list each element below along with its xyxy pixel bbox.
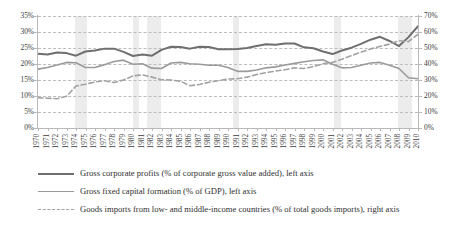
x-tick-mark xyxy=(314,128,315,131)
x-tick-mark xyxy=(219,128,220,131)
legend-swatch-line-icon xyxy=(38,186,74,196)
y-tick-mark-left xyxy=(34,32,37,33)
x-tick-mark xyxy=(190,128,191,131)
x-tick-label: 1979 xyxy=(120,134,127,148)
y-tick-mark-right xyxy=(419,80,422,81)
x-tick-mark xyxy=(209,128,210,131)
legend-item-goods-imports: Goods imports from low- and middle-incom… xyxy=(38,202,399,216)
y-tick-mark-left xyxy=(34,128,37,129)
x-tick-label: 2003 xyxy=(348,134,355,148)
y-tick-mark-right xyxy=(419,16,422,17)
x-tick-label: 1992 xyxy=(243,134,250,148)
x-tick-label: 2008 xyxy=(395,134,402,148)
x-tick-mark xyxy=(371,128,372,131)
chart-legend: Gross corporate profits (% of corporate … xyxy=(0,166,456,230)
y-tick-mark-left xyxy=(34,48,37,49)
x-tick-label: 2006 xyxy=(376,134,383,148)
x-tick-mark xyxy=(48,128,49,131)
x-tick-mark xyxy=(86,128,87,131)
y-tick-mark-left xyxy=(34,96,37,97)
x-tick-label: 2010 xyxy=(414,134,421,148)
x-tick-label: 1994 xyxy=(262,134,269,148)
legend-label: Gross fixed capital formation (% of GDP)… xyxy=(80,187,256,196)
x-tick-mark xyxy=(399,128,400,131)
axis-line-left xyxy=(37,15,38,129)
x-tick-label: 1989 xyxy=(215,134,222,148)
x-tick-mark xyxy=(181,128,182,131)
x-tick-label: 1975 xyxy=(82,134,89,148)
x-tick-label: 1997 xyxy=(291,134,298,148)
x-tick-label: 1995 xyxy=(272,134,279,148)
y-tick-mark-left xyxy=(34,16,37,17)
legend-label: Goods imports from low- and middle-incom… xyxy=(80,205,399,214)
x-tick-mark xyxy=(390,128,391,131)
series-line-1 xyxy=(38,60,418,79)
x-tick-label: 1976 xyxy=(91,134,98,148)
y-tick-mark-right xyxy=(419,112,422,113)
x-tick-mark xyxy=(105,128,106,131)
x-tick-label: 2004 xyxy=(357,134,364,148)
x-tick-mark xyxy=(228,128,229,131)
x-tick-label: 1972 xyxy=(53,134,60,148)
x-tick-mark xyxy=(295,128,296,131)
x-tick-label: 2005 xyxy=(367,134,374,148)
x-tick-label: 1982 xyxy=(148,134,155,148)
y-tick-label-right: 30% xyxy=(424,76,438,83)
x-tick-label: 1977 xyxy=(101,134,108,148)
x-tick-mark xyxy=(152,128,153,131)
y-tick-mark-left xyxy=(34,80,37,81)
y-tick-label-left: 15% xyxy=(20,76,34,83)
x-tick-mark xyxy=(285,128,286,131)
y-tick-label-right: 20% xyxy=(424,92,438,99)
x-tick-label: 2001 xyxy=(329,134,336,148)
x-tick-label: 1996 xyxy=(281,134,288,148)
y-tick-label-right: 0% xyxy=(424,124,434,131)
x-tick-mark xyxy=(418,128,419,131)
y-tick-label-right: 60% xyxy=(424,28,438,35)
x-tick-mark xyxy=(67,128,68,131)
x-tick-label: 1988 xyxy=(205,134,212,148)
x-tick-mark xyxy=(95,128,96,131)
x-tick-mark xyxy=(352,128,353,131)
x-tick-label: 1991 xyxy=(234,134,241,148)
x-tick-label: 1978 xyxy=(110,134,117,148)
x-tick-label: 1990 xyxy=(224,134,231,148)
x-tick-mark xyxy=(342,128,343,131)
y-tick-mark-right xyxy=(419,32,422,33)
y-tick-label-left: 0% xyxy=(24,124,34,131)
y-tick-label-left: 20% xyxy=(20,60,34,67)
x-tick-label: 1974 xyxy=(72,134,79,148)
y-tick-label-right: 70% xyxy=(424,12,438,19)
x-tick-label: 1981 xyxy=(139,134,146,148)
y-tick-label-left: 35% xyxy=(20,12,34,19)
x-tick-mark xyxy=(409,128,410,131)
x-tick-mark xyxy=(133,128,134,131)
x-tick-label: 1987 xyxy=(196,134,203,148)
x-tick-mark xyxy=(200,128,201,131)
x-tick-mark xyxy=(238,128,239,131)
y-tick-mark-right xyxy=(419,128,422,129)
y-tick-label-left: 30% xyxy=(20,28,34,35)
plot-area: 0%5%10%15%20%25%30%35% 0%10%20%30%40%50%… xyxy=(0,0,456,160)
legend-swatch-line-icon xyxy=(38,168,74,178)
y-tick-mark-right xyxy=(419,64,422,65)
chart-container: 0%5%10%15%20%25%30%35% 0%10%20%30%40%50%… xyxy=(0,0,456,230)
legend-label: Gross corporate profits (% of corporate … xyxy=(80,169,314,178)
x-tick-mark xyxy=(380,128,381,131)
y-tick-label-right: 50% xyxy=(424,44,438,51)
x-tick-mark xyxy=(276,128,277,131)
series-layer xyxy=(38,16,418,128)
x-tick-label: 1980 xyxy=(129,134,136,148)
y-tick-label-left: 5% xyxy=(24,108,34,115)
x-tick-label: 1986 xyxy=(186,134,193,148)
x-tick-label: 1993 xyxy=(253,134,260,148)
x-tick-mark xyxy=(114,128,115,131)
x-tick-label: 2002 xyxy=(338,134,345,148)
x-tick-mark xyxy=(247,128,248,131)
x-tick-mark xyxy=(76,128,77,131)
x-tick-mark xyxy=(171,128,172,131)
x-tick-label: 1970 xyxy=(34,134,41,148)
legend-swatch-dashed-line-icon xyxy=(38,204,74,214)
x-tick-mark xyxy=(38,128,39,131)
x-tick-mark xyxy=(124,128,125,131)
